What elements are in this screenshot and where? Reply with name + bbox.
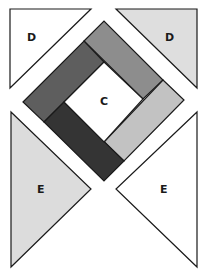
piece-label-tl: D — [27, 32, 36, 43]
piece-label-bl: E — [37, 184, 45, 195]
quilt-diagram: DDCEE — [0, 0, 211, 279]
piece-label-br: E — [160, 184, 168, 195]
piece-label-tr: D — [165, 32, 174, 43]
piece-label-center: C — [100, 96, 108, 107]
